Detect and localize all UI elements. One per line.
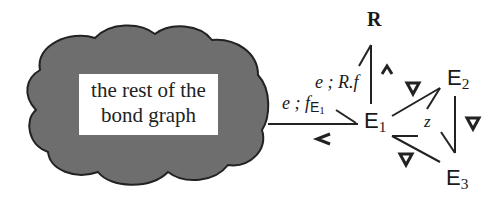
causal-mark-E2-E3	[467, 118, 479, 129]
node-E3: E3	[446, 165, 468, 193]
node-E2: E2	[447, 65, 469, 93]
node-R: R	[367, 8, 381, 31]
cloud-label-line1: the rest of the	[79, 78, 218, 103]
causal-mark-cloud-E1	[317, 134, 330, 144]
causal-mark-E1-E2	[407, 83, 419, 94]
bond-graph-diagram	[0, 0, 500, 207]
cloud-label: the rest of the bond graph	[79, 78, 218, 128]
node-E1: E1	[364, 108, 386, 136]
edge-label-E1-R: e ; R.f	[315, 72, 358, 93]
causal-mark-E1-R	[382, 66, 392, 74]
edge-label-cloud-E1: e ; fE1	[282, 93, 325, 116]
edge-label-z: z	[424, 112, 431, 132]
cloud-label-line2: bond graph	[79, 103, 218, 128]
causal-mark-E1-E3	[400, 154, 412, 165]
